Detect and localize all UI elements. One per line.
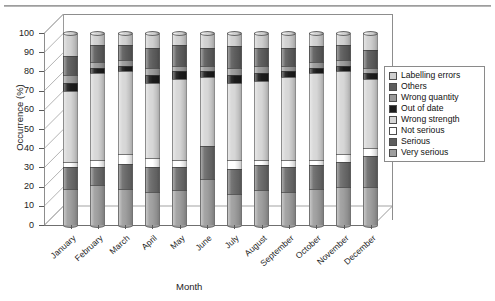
bar-segment <box>145 83 160 158</box>
bar-segment <box>363 50 378 67</box>
bar-segment-divider <box>281 167 296 168</box>
bar-segment-divider <box>118 154 133 155</box>
bar-march[interactable] <box>118 33 133 225</box>
bar-segment-divider <box>118 60 133 61</box>
bar-segment-divider <box>254 48 269 49</box>
legend-label: Serious <box>401 137 430 146</box>
bar-segment <box>227 169 242 194</box>
legend-item[interactable]: Wrong strength <box>389 114 481 125</box>
bar-segment-divider <box>363 79 378 80</box>
bar-segment-divider <box>227 169 242 170</box>
bar-segment-divider <box>145 83 160 84</box>
x-tick-mark <box>289 225 290 229</box>
bar-segment-divider <box>227 83 242 84</box>
bar-body <box>281 33 296 225</box>
bar-segment <box>336 187 351 225</box>
legend-label: Labelling errors <box>401 71 460 80</box>
bar-segment-divider <box>363 73 378 74</box>
bar-segment <box>145 48 160 67</box>
bar-segment-divider <box>118 45 133 46</box>
bar-top-ellipse <box>63 31 78 36</box>
bar-segment <box>254 73 269 81</box>
bar-segment-divider <box>254 66 269 67</box>
x-tick-mark <box>180 225 181 229</box>
bar-june[interactable] <box>200 33 215 225</box>
bar-segment-divider <box>63 189 78 190</box>
bar-segment-divider <box>200 71 215 72</box>
bar-segment-divider <box>281 48 296 49</box>
bar-december[interactable] <box>363 33 378 225</box>
bar-top-ellipse <box>254 31 269 36</box>
bar-segment-divider <box>118 66 133 67</box>
y-tick-mark <box>39 129 44 130</box>
bar-segment <box>172 71 187 79</box>
legend-item[interactable]: Wrong quantity <box>389 92 481 103</box>
bar-top-ellipse <box>336 31 351 36</box>
bar-segment <box>145 75 160 83</box>
x-axis-title: Month <box>176 281 202 292</box>
bar-segment-divider <box>363 148 378 149</box>
legend-item[interactable]: Out of date <box>389 103 481 114</box>
bar-body <box>254 33 269 225</box>
bar-top-ellipse <box>281 31 296 36</box>
bar-segment <box>145 68 160 76</box>
bar-segment <box>172 160 187 168</box>
bar-segment-divider <box>227 75 242 76</box>
legend-label: Not serious <box>401 126 444 135</box>
bar-segment <box>227 68 242 76</box>
bar-segment-divider <box>90 73 105 74</box>
bar-segment <box>254 190 269 225</box>
bar-segment-divider <box>363 50 378 51</box>
bar-segment-divider <box>281 77 296 78</box>
bar-segment-divider <box>172 190 187 191</box>
bar-segment-divider <box>363 187 378 188</box>
bar-segment-divider <box>309 68 324 69</box>
legend-item[interactable]: Very serious <box>389 147 481 158</box>
bar-segment <box>118 45 133 60</box>
legend-item[interactable]: Not serious <box>389 125 481 136</box>
bar-segment-divider <box>145 75 160 76</box>
bar-segment-divider <box>254 73 269 74</box>
bar-segment-divider <box>63 91 78 92</box>
bar-segment-divider <box>254 160 269 161</box>
bar-segment <box>145 192 160 225</box>
bar-january[interactable] <box>63 33 78 225</box>
bar-segment-divider <box>363 156 378 157</box>
bar-april[interactable] <box>145 33 160 225</box>
bar-segment-divider <box>90 167 105 168</box>
legend-item[interactable]: Serious <box>389 136 481 147</box>
bar-segment <box>90 185 105 225</box>
bar-segment <box>63 33 78 56</box>
bar-segment-divider <box>336 71 351 72</box>
bar-segment <box>363 79 378 148</box>
bar-segment <box>281 167 296 192</box>
bar-segment-divider <box>172 45 187 46</box>
bar-may[interactable] <box>172 33 187 225</box>
legend-item[interactable]: Others <box>389 81 481 92</box>
bar-segment-divider <box>227 160 242 161</box>
bar-segment-divider <box>281 66 296 67</box>
bar-september[interactable] <box>281 33 296 225</box>
bar-segment-divider <box>309 46 324 47</box>
bar-july[interactable] <box>227 33 242 225</box>
legend-label: Out of date <box>401 104 444 113</box>
bar-segment-divider <box>336 66 351 67</box>
bar-segment <box>336 71 351 154</box>
bar-body <box>336 33 351 225</box>
bar-segment-divider <box>309 73 324 74</box>
bar-body <box>309 33 324 225</box>
bar-segment-divider <box>172 71 187 72</box>
y-tick-mark <box>39 187 44 188</box>
chart-canvas: 1009080706050403020100 Occurrence (%) Ja… <box>0 0 495 301</box>
bar-segment-divider <box>172 160 187 161</box>
bar-segment <box>118 71 133 154</box>
bar-segment-divider <box>200 48 215 49</box>
legend-item[interactable]: Labelling errors <box>389 70 481 81</box>
bar-segment <box>63 56 78 75</box>
bar-segment <box>281 192 296 225</box>
bar-segment <box>90 160 105 168</box>
bar-august[interactable] <box>254 33 269 225</box>
bar-october[interactable] <box>309 33 324 225</box>
bar-february[interactable] <box>90 33 105 225</box>
bar-november[interactable] <box>336 33 351 225</box>
